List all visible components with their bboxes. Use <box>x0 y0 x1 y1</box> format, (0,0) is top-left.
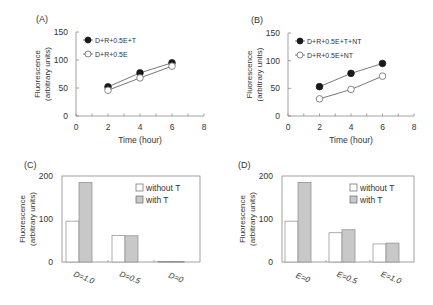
y-axis-title: (arbitrary units) <box>43 47 52 101</box>
legend-label: with T <box>359 195 383 205</box>
y-axis-title: (arbitrary units) <box>248 192 257 246</box>
legend-label: D+R+0.5E+NT <box>307 52 354 59</box>
open-circle-marker <box>137 75 144 82</box>
y-tick-label: 100 <box>259 214 273 224</box>
open-circle-marker <box>105 87 112 94</box>
figure: (A)Fluorescence(arbitrary units)05010015… <box>0 0 433 305</box>
category-label: E=0.5 <box>335 270 358 286</box>
y-tick-label: 150 <box>54 27 68 37</box>
bar <box>298 182 311 262</box>
y-tick-label: 100 <box>266 56 280 66</box>
legend-label: with T <box>145 195 169 205</box>
open-circle-marker <box>316 96 323 103</box>
y-axis-title: (arbitrary units) <box>28 192 37 246</box>
x-axis-title: Time (hour) <box>329 135 373 145</box>
filled-circle-marker <box>348 70 355 77</box>
category-label: D=1.0 <box>72 269 96 286</box>
x-tick-label: 6 <box>170 122 175 132</box>
filled-circle-marker <box>316 83 323 90</box>
legend-marker-icon <box>85 51 91 57</box>
y-tick-label: 50 <box>59 83 69 93</box>
y-axis-title: Fluorescence <box>18 194 27 243</box>
legend-swatch-icon <box>350 196 357 203</box>
legend-swatch-icon <box>350 184 357 191</box>
x-tick-label: 4 <box>349 122 354 132</box>
y-axis-title: Fluorescence <box>33 49 42 98</box>
chart-panel-b: (B)Fluorescence(arbitrary units)05010015… <box>245 15 417 145</box>
bar <box>285 221 298 262</box>
open-circle-marker <box>348 86 355 93</box>
chart-panel-a: (A)Fluorescence(arbitrary units)05010015… <box>33 14 207 145</box>
bar <box>329 233 342 262</box>
y-tick-label: 0 <box>268 257 273 267</box>
y-tick-label: 100 <box>39 214 53 224</box>
legend-swatch-icon <box>136 184 143 191</box>
category-label: D=0 <box>167 271 185 285</box>
x-tick-label: 2 <box>106 122 111 132</box>
y-tick-label: 0 <box>63 111 68 121</box>
y-tick-label: 150 <box>266 28 280 38</box>
x-tick-label: 6 <box>380 122 385 132</box>
panel-label: (A) <box>36 14 48 24</box>
category-label: E=0 <box>295 271 312 285</box>
x-axis-title: Time (hour) <box>118 135 162 145</box>
legend-swatch-icon <box>136 196 143 203</box>
y-tick-label: 50 <box>271 83 281 93</box>
y-axis-title: (arbitrary units) <box>255 47 264 101</box>
x-tick-label: 8 <box>412 122 417 132</box>
legend-label: D+R+0.5E+T+NT <box>307 38 362 45</box>
category-label: E=1.0 <box>379 270 402 286</box>
y-axis-title: Fluorescence <box>245 50 254 99</box>
bar <box>125 236 138 262</box>
legend-label: D+R+0.5E+T <box>95 37 137 44</box>
y-tick-label: 0 <box>275 111 280 121</box>
bar <box>158 262 171 263</box>
y-tick-label: 0 <box>48 257 53 267</box>
x-tick-label: 2 <box>317 122 322 132</box>
open-circle-marker <box>169 63 176 70</box>
y-tick-label: 200 <box>39 171 53 181</box>
bar <box>79 182 92 262</box>
filled-circle-marker <box>379 60 386 67</box>
legend-label: without T <box>359 183 394 193</box>
y-axis-title: Fluorescence <box>238 194 247 243</box>
legend-marker-icon <box>297 52 303 58</box>
panel-label: (C) <box>24 160 37 170</box>
bar <box>386 243 399 262</box>
bar <box>373 244 386 262</box>
panel-label: (B) <box>251 15 263 25</box>
category-label: D=0.5 <box>118 269 142 286</box>
x-tick-label: 0 <box>286 122 291 132</box>
legend-marker-icon <box>85 37 91 43</box>
open-circle-marker <box>379 73 386 80</box>
legend-label: D+R+0.5E <box>95 51 128 58</box>
legend-label: without T <box>145 183 180 193</box>
x-tick-label: 4 <box>138 122 143 132</box>
legend-marker-icon <box>297 38 303 44</box>
y-tick-label: 200 <box>259 171 273 181</box>
panel-label: (D) <box>238 160 251 170</box>
chart-panel-c: (C)Fluorescence(arbitrary units)0100200D… <box>18 160 200 286</box>
bar <box>66 221 79 262</box>
bar <box>342 230 355 262</box>
chart-panel-d: (D)Fluorescence(arbitrary units)0100200E… <box>238 160 414 286</box>
y-tick-label: 100 <box>54 55 68 65</box>
bar <box>171 262 184 263</box>
x-tick-label: 8 <box>202 122 207 132</box>
bar <box>112 235 125 262</box>
x-tick-label: 0 <box>74 122 79 132</box>
